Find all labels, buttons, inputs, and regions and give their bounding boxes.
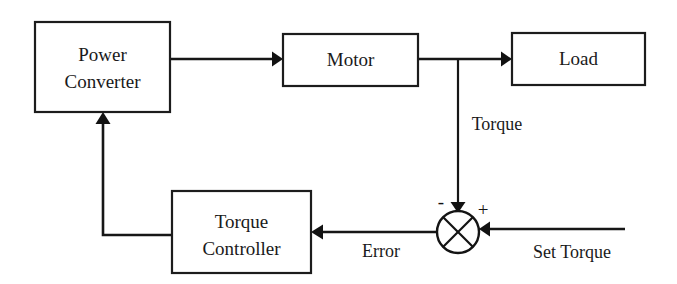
connector-power-converter-to-motor bbox=[170, 52, 283, 67]
connector-set-torque-input bbox=[479, 222, 625, 237]
block-torque-controller[interactable]: Torque Controller bbox=[172, 191, 311, 273]
summing-junction-negative-sign: - bbox=[438, 191, 444, 212]
block-power-converter[interactable]: Power Converter bbox=[35, 22, 170, 112]
block-load-label: Load bbox=[559, 48, 599, 69]
block-load[interactable]: Load bbox=[512, 33, 645, 85]
block-torque-controller-label-line1: Torque bbox=[215, 211, 269, 232]
diagram-svg: Power Converter Motor Load Torque Contro… bbox=[0, 0, 677, 284]
signal-label-torque: Torque bbox=[472, 114, 523, 134]
block-motor-label: Motor bbox=[327, 49, 375, 70]
summing-junction-positive-sign: + bbox=[478, 199, 489, 220]
block-diagram-canvas: Power Converter Motor Load Torque Contro… bbox=[0, 0, 677, 284]
block-torque-controller-label-line2: Controller bbox=[202, 238, 281, 259]
block-motor[interactable]: Motor bbox=[283, 34, 418, 86]
summing-junction bbox=[437, 211, 479, 253]
signal-label-set-torque: Set Torque bbox=[533, 242, 611, 262]
block-power-converter-label-line2: Converter bbox=[65, 71, 142, 92]
connector-error-to-torque-controller bbox=[311, 225, 437, 240]
connector-torque-feedback bbox=[451, 59, 466, 213]
connector-motor-to-load bbox=[418, 52, 512, 67]
block-power-converter-label-line1: Power bbox=[78, 44, 127, 65]
connector-torque-controller-to-power-converter bbox=[96, 112, 173, 235]
signal-label-error: Error bbox=[362, 241, 400, 261]
